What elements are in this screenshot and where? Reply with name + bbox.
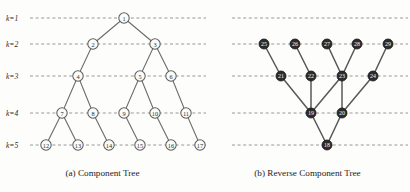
tree-node-21[interactable]: 21 [276, 71, 286, 81]
tree-node-10[interactable]: 10 [150, 108, 160, 118]
tree-node-8[interactable]: 8 [88, 108, 98, 118]
tree-node-20[interactable]: 20 [337, 108, 347, 118]
tree-edge-4-7 [62, 76, 78, 113]
row-label-k4: k=4 [6, 109, 18, 118]
tree-node-label-16: 16 [168, 142, 174, 149]
tree-node-3[interactable]: 3 [150, 39, 160, 49]
tree-edge-25-21 [264, 44, 281, 76]
tree-node-24[interactable]: 24 [368, 71, 378, 81]
caption-reverse-component-tree: (b) Reverse Component Tree [205, 168, 410, 178]
tree-node-14[interactable]: 14 [104, 140, 114, 150]
tree-node-18[interactable]: 18 [322, 140, 332, 150]
tree-node-9[interactable]: 9 [119, 108, 129, 118]
row-label-k5: k=5 [6, 141, 18, 150]
tree-node-label-15: 15 [137, 142, 143, 149]
tree-node-4[interactable]: 4 [73, 71, 83, 81]
tree-node-label-11: 11 [183, 110, 189, 117]
gridlines-layer [30, 18, 408, 145]
tree-node-label-10: 10 [152, 110, 158, 117]
tree-node-label-8: 8 [91, 110, 94, 117]
tree-node-11[interactable]: 11 [181, 108, 191, 118]
tree-node-label-20: 20 [339, 110, 345, 116]
row-labels-layer: k=1k=2k=3k=4k=5 [6, 14, 18, 150]
tree-node-label-9: 9 [122, 110, 125, 117]
tree-node-28[interactable]: 28 [352, 39, 362, 49]
tree-node-16[interactable]: 16 [166, 140, 176, 150]
tree-node-23[interactable]: 23 [337, 71, 347, 81]
tree-edge-5-10 [140, 76, 155, 113]
edges-layer [46, 18, 388, 145]
tree-node-label-3: 3 [153, 41, 156, 48]
tree-node-label-22: 22 [308, 73, 314, 79]
tree-node-label-27: 27 [324, 41, 330, 47]
tree-node-label-24: 24 [370, 73, 376, 79]
tree-node-17[interactable]: 17 [195, 140, 205, 150]
tree-node-label-7: 7 [60, 110, 63, 117]
tree-node-6[interactable]: 6 [166, 71, 176, 81]
row-label-k3: k=3 [6, 72, 18, 81]
figure-container: 1234567891011121314151617252627282921222… [0, 0, 410, 192]
tree-node-19[interactable]: 19 [306, 108, 316, 118]
tree-node-25[interactable]: 25 [259, 39, 269, 49]
tree-edge-24-20 [342, 76, 373, 113]
tree-node-label-21: 21 [278, 73, 284, 79]
tree-node-label-12: 12 [43, 142, 49, 149]
tree-node-label-5: 5 [138, 73, 141, 80]
row-label-k1: k=1 [6, 14, 18, 23]
tree-node-label-14: 14 [106, 142, 113, 149]
tree-node-12[interactable]: 12 [41, 140, 51, 150]
tree-node-label-13: 13 [75, 142, 81, 149]
tree-edge-5-9 [124, 76, 140, 113]
tree-node-label-26: 26 [292, 41, 298, 47]
tree-node-22[interactable]: 22 [306, 71, 316, 81]
tree-node-7[interactable]: 7 [57, 108, 67, 118]
row-label-k2: k=2 [6, 40, 18, 49]
tree-node-label-18: 18 [324, 142, 330, 148]
tree-edge-1-3 [124, 18, 155, 44]
tree-edge-4-8 [78, 76, 93, 113]
tree-node-label-29: 29 [385, 41, 391, 47]
tree-edge-21-19 [281, 76, 311, 113]
tree-node-1[interactable]: 1 [119, 13, 129, 23]
tree-node-label-28: 28 [354, 41, 360, 47]
tree-node-label-1: 1 [122, 15, 125, 22]
tree-node-27[interactable]: 27 [322, 39, 332, 49]
tree-node-label-23: 23 [339, 73, 345, 79]
tree-node-5[interactable]: 5 [135, 71, 145, 81]
tree-node-2[interactable]: 2 [88, 39, 98, 49]
tree-node-label-25: 25 [261, 41, 267, 47]
tree-edge-1-2 [93, 18, 124, 44]
tree-edge-6-11 [171, 76, 186, 113]
tree-node-label-17: 17 [197, 142, 203, 149]
tree-edge-23-19 [311, 76, 342, 113]
caption-component-tree: (a) Component Tree [0, 168, 205, 178]
tree-node-label-6: 6 [169, 73, 172, 80]
tree-node-13[interactable]: 13 [73, 140, 83, 150]
tree-node-label-2: 2 [91, 41, 94, 48]
tree-node-26[interactable]: 26 [290, 39, 300, 49]
tree-figure-svg: 1234567891011121314151617252627282921222… [0, 0, 410, 192]
tree-node-15[interactable]: 15 [135, 140, 145, 150]
tree-node-29[interactable]: 29 [383, 39, 393, 49]
tree-node-label-19: 19 [308, 110, 314, 116]
nodes-layer: 1234567891011121314151617252627282921222… [41, 13, 393, 150]
